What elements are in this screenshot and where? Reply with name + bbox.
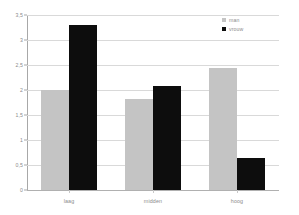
bar-man-laag[interactable] [41,90,69,190]
y-tick-mark [24,165,27,166]
bar-vrouw-hoog[interactable] [237,158,265,190]
chart-legend: man vrouw [222,17,243,32]
legend-item-vrouw[interactable]: vrouw [222,26,243,32]
y-tick-label: 0 [20,187,23,193]
y-tick-mark [24,190,27,191]
gridline [27,65,279,66]
x-axis-label-midden: midden [144,198,162,204]
y-tick-label: 1 [20,137,23,143]
y-tick-label: 3 [20,37,23,43]
x-tick-mark [153,190,154,193]
legend-label-man: man [229,17,239,23]
legend-swatch-man [222,18,226,22]
plot-area: 00,511,522,533,5laagmiddenhoog [27,15,279,190]
x-tick-mark [69,190,70,193]
y-tick-mark [24,65,27,66]
x-tick-mark [237,190,238,193]
y-tick-label: 0,5 [15,162,23,168]
y-tick-mark [24,40,27,41]
x-axis-label-hoog: hoog [231,198,243,204]
bar-vrouw-midden[interactable] [153,86,181,190]
legend-swatch-vrouw [222,27,226,31]
y-tick-mark [24,90,27,91]
y-tick-mark [24,115,27,116]
y-tick-label: 2 [20,87,23,93]
bar-man-midden[interactable] [125,99,153,190]
x-axis-label-laag: laag [64,198,75,204]
legend-item-man[interactable]: man [222,17,243,23]
y-tick-label: 3,5 [15,12,23,18]
y-tick-label: 2,5 [15,62,23,68]
bar-chart: 00,511,522,533,5laagmiddenhoog man vrouw [0,0,299,215]
bar-man-hoog[interactable] [209,68,237,191]
y-tick-mark [24,140,27,141]
y-tick-mark [24,15,27,16]
legend-label-vrouw: vrouw [229,26,243,32]
gridline [27,40,279,41]
bar-vrouw-laag[interactable] [69,25,97,190]
y-tick-label: 1,5 [15,112,23,118]
gridline [27,15,279,16]
